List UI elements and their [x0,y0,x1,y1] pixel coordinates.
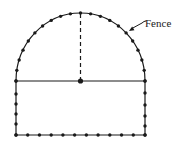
fence-post [14,92,17,95]
fence-post [99,15,102,18]
fence-post [108,133,111,136]
fence-post [69,12,72,15]
fence-post [143,114,146,117]
fence-post [79,11,82,14]
fence-post [26,133,29,136]
fence-post [131,39,134,42]
fence-label: Fence [145,17,171,29]
fence-post [14,79,17,82]
fence-post [61,133,64,136]
fence-post [136,48,139,51]
center-point [78,78,83,83]
fence-post [38,133,41,136]
fence-post [14,133,17,136]
fence-post [15,69,18,72]
fence-post [49,133,52,136]
arrow-line [131,21,146,29]
fence-post [41,24,44,27]
fence-post [14,102,17,105]
fence-post [143,103,146,106]
fence-post [120,133,123,136]
fence-post [117,24,120,27]
fence-post [143,91,146,94]
fence-post [14,112,17,115]
fence-annotation: Fence [129,17,171,31]
fence-post [85,133,88,136]
fence-post [33,31,36,34]
fence-post [132,133,135,136]
fence-post [108,19,111,22]
fence-post [143,133,146,136]
fence-post [124,31,127,34]
fence-post [17,58,20,61]
fence-post [140,58,143,61]
fence-post [59,15,62,18]
fence-post [21,48,24,51]
fence-post [27,39,30,42]
fence-post [143,69,146,72]
fence-post [73,133,76,136]
fence-post [96,133,99,136]
fence-post [143,124,146,127]
fence-post [89,12,92,15]
fence-post [14,122,17,125]
fence-post [50,19,53,22]
fence-post [143,79,146,82]
fence-diagram: Fence [0,0,187,149]
